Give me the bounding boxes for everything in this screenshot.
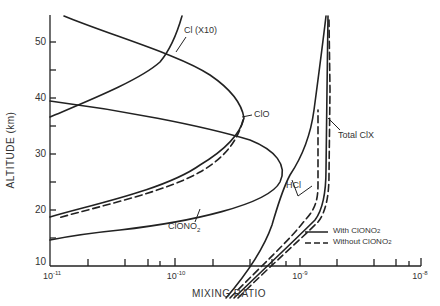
label-total-clx: Total ClX (338, 130, 374, 140)
legend-entry-with: With ClONO2 (333, 226, 380, 235)
series-total-clx-without (238, 20, 330, 298)
x-tick-1e-10: 10-10 (167, 270, 186, 281)
x-axis-label: MIXING RATIO (192, 288, 266, 299)
leader-cl-x10 (176, 37, 186, 52)
y-tick-10: 10 (22, 256, 46, 267)
legend-entry-without: Without ClONO2 (333, 237, 391, 246)
y-axis-label: ALTITUDE (km) (5, 112, 16, 189)
y-tick-40: 40 (22, 92, 46, 103)
x-tick-1e-8: 10-8 (412, 270, 427, 281)
y-tick-20: 20 (22, 204, 46, 215)
label-hcl: HCl (286, 180, 301, 190)
label-clono2: ClONO2 (168, 221, 200, 233)
series-cl-x10 (50, 16, 182, 117)
label-cl-x10: Cl (X10) (184, 25, 217, 35)
series-clo-without (58, 120, 243, 218)
chart-plot (0, 0, 440, 306)
series-total-clx-with (234, 16, 328, 298)
y-tick-50: 50 (22, 36, 46, 47)
series-clono2 (50, 101, 282, 240)
x-tick-1e-9: 10-9 (292, 270, 307, 281)
x-tick-1e-11: 10-11 (43, 270, 61, 281)
y-tick-30: 30 (22, 148, 46, 159)
label-clo: ClO (254, 109, 270, 119)
